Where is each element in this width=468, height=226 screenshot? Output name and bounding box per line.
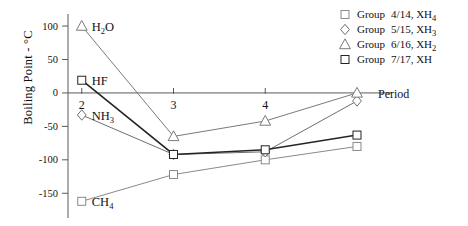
square-marker (170, 171, 178, 179)
y-tick-label: -150 (39, 188, 58, 199)
square-marker (353, 131, 361, 139)
square-marker (353, 142, 361, 150)
square-marker (341, 11, 349, 19)
diamond-marker (341, 24, 350, 34)
svg-text:NH3: NH3 (92, 109, 114, 125)
legend-item-4: Group7/17, XH (341, 53, 432, 65)
square-marker (341, 56, 349, 64)
y-tick-label: -50 (44, 121, 58, 132)
y-tick-label: 0 (53, 87, 58, 98)
point-label-3: NH3 (92, 109, 114, 125)
plot-area: 100500-50-100-150 234 H2OHFNH3CH4 Group4… (0, 0, 468, 226)
triangle-marker (76, 20, 87, 30)
legend-item-label: Group5/15, XH3 (357, 23, 436, 38)
svg-text:CH4: CH4 (92, 195, 114, 211)
triangle-marker (340, 39, 351, 49)
point-label-4: CH4 (92, 195, 114, 211)
x-axis-title: Period (378, 87, 409, 101)
square-marker (170, 150, 178, 158)
square-marker (78, 76, 86, 84)
legend-group: Group4/14, XH4Group5/15, XH3Group6/16, X… (340, 8, 437, 65)
boiling-point-chart: Boiling Point - °C 100500-50-100-150 234… (0, 0, 468, 226)
legend-item-3: Group6/16, XH2 (340, 38, 437, 53)
series-lines-group (82, 26, 357, 201)
y-tick-label: -100 (39, 154, 58, 165)
y-tick-group: 100500-50-100-150 (39, 21, 68, 199)
y-tick-label: 50 (48, 54, 59, 65)
series-line-1 (82, 146, 357, 201)
square-marker (261, 146, 269, 154)
series-line-3 (82, 26, 357, 136)
series-line-4 (82, 80, 357, 154)
annotation-group: H2OHFNH3CH4 (92, 20, 114, 211)
svg-text:HF: HF (92, 74, 108, 88)
triangle-marker (352, 87, 363, 97)
legend-item-2: Group5/15, XH3 (341, 23, 437, 38)
legend-item-label: Group4/14, XH4 (357, 8, 437, 23)
x-tick-label: 3 (171, 98, 177, 112)
legend-item-label: Group7/17, XH (357, 53, 432, 65)
legend-item-label: Group6/16, XH2 (357, 38, 436, 53)
point-label-2: HF (92, 74, 108, 88)
square-marker (78, 197, 86, 205)
y-tick-label: 100 (42, 21, 58, 32)
svg-text:H2O: H2O (92, 20, 114, 36)
point-label-1: H2O (92, 20, 114, 36)
legend-item-1: Group4/14, XH4 (341, 8, 437, 23)
x-axis-title-group: Period (378, 87, 409, 101)
series-markers-group (76, 20, 362, 205)
x-tick-label: 4 (262, 98, 268, 112)
series-line-2 (82, 101, 357, 155)
